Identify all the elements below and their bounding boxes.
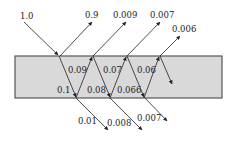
transmitted-label-1: 0.01 bbox=[78, 116, 97, 126]
internal-down-label-1: 0.1 bbox=[57, 85, 71, 95]
reflected-label-1: 0.9 bbox=[85, 10, 99, 20]
internal-down-label-3: 0.066 bbox=[117, 85, 141, 95]
incident-ray bbox=[24, 22, 58, 55]
transmitted-label-3: 0.007 bbox=[137, 113, 161, 123]
internal-up-label-1: 0.09 bbox=[68, 65, 87, 75]
reflected-ray-3 bbox=[127, 22, 160, 56]
slab-reflection-diagram: 1.0 0.9 0.009 0.007 0.006 0.1 0.08 0.066… bbox=[0, 0, 232, 141]
reflected-label-2: 0.009 bbox=[113, 10, 137, 20]
reflected-ray-1 bbox=[60, 22, 92, 56]
transmitted-label-2: 0.008 bbox=[107, 118, 131, 128]
internal-up-label-2: 0.07 bbox=[103, 65, 122, 75]
reflected-label-3: 0.007 bbox=[150, 10, 174, 20]
internal-down-label-2: 0.08 bbox=[87, 85, 106, 95]
incident-label: 1.0 bbox=[20, 11, 34, 21]
reflected-ray-4 bbox=[160, 36, 180, 56]
reflected-label-4: 0.006 bbox=[172, 24, 196, 34]
internal-up-label-3: 0.06 bbox=[137, 65, 156, 75]
reflected-ray-2 bbox=[93, 22, 126, 56]
